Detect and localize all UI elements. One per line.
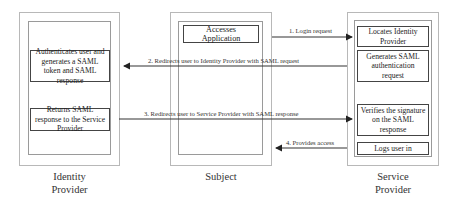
message-3-label: 3. Redirects user to Service Provider wi… <box>144 110 299 117</box>
message-2-label: 2. Redirects user to Identity Provider w… <box>148 57 299 64</box>
message-arrows <box>0 0 456 202</box>
message-4-label: 4. Provides access <box>286 139 334 146</box>
message-1-label: 1. Login request <box>289 27 332 34</box>
